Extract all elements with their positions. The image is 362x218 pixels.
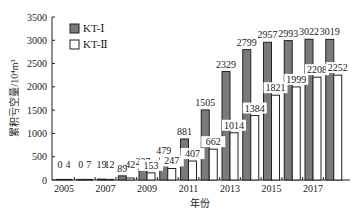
y-tick-label: 3500	[27, 12, 47, 23]
chart-canvas: 0500100015002000250030003500200520072009…	[0, 0, 362, 218]
y-tick-label: 500	[32, 151, 47, 162]
legend-swatch-kt2	[70, 40, 79, 49]
y-tick-label: 1000	[27, 128, 47, 139]
data-label: 0	[58, 159, 63, 170]
x-axis-title: 年份	[190, 197, 210, 209]
data-label: 479	[156, 145, 171, 156]
x-tick-label: 2011	[179, 183, 199, 194]
y-tick-label: 0	[42, 175, 47, 186]
data-label: 12	[105, 159, 115, 170]
data-label: 1384	[245, 103, 265, 114]
data-label: 42	[125, 159, 135, 170]
data-label: 2957	[258, 29, 278, 40]
bar-kt2-2005	[64, 179, 72, 180]
data-label: 662	[206, 136, 221, 147]
bar-kt2-2013	[230, 133, 238, 180]
bar-kt1-2016	[284, 41, 292, 180]
bar-kt2-2010	[168, 168, 176, 180]
data-label: 1999	[286, 74, 306, 85]
data-label: 881	[177, 126, 192, 137]
x-tick-label: 2007	[96, 183, 116, 194]
legend: KT-Ⅰ KT-Ⅱ	[70, 22, 108, 50]
bar-kt1-2008	[118, 176, 126, 180]
bar-kt2-2006	[85, 179, 93, 180]
data-label: 247	[164, 155, 179, 166]
legend-label-kt1: KT-Ⅰ	[83, 22, 105, 34]
data-label: 3022	[299, 26, 319, 37]
data-label: 2329	[216, 59, 236, 70]
data-label: 153	[144, 160, 159, 171]
data-label: 0	[78, 159, 83, 170]
data-label: 1014	[224, 120, 244, 131]
data-label: 7	[86, 159, 91, 170]
bar-kt2-2017	[313, 77, 321, 180]
data-label: 407	[185, 148, 200, 159]
bar-kt1-2006	[77, 179, 85, 180]
bar-kt1-2014	[243, 50, 251, 180]
bar-kt1-2007	[98, 179, 106, 180]
data-label: 1505	[195, 97, 215, 108]
data-label: 2799	[237, 37, 257, 48]
bar-kt2-2012	[209, 149, 217, 180]
x-tick-label: 2017	[303, 183, 323, 194]
y-tick-label: 2000	[27, 81, 47, 92]
bar-chart: 0500100015002000250030003500200520072009…	[0, 0, 362, 218]
x-tick-label: 2015	[262, 183, 282, 194]
bar-kt2-2018	[334, 75, 342, 180]
data-label: 1821	[266, 82, 286, 93]
bar-kt1-2005	[56, 179, 64, 180]
bar-kt1-2018	[326, 39, 334, 180]
y-tick-label: 1500	[27, 105, 47, 116]
y-tick-label: 2500	[27, 58, 47, 69]
bar-kt2-2008	[126, 178, 134, 180]
data-label: 2208	[307, 64, 327, 75]
bar-kt2-2014	[251, 116, 259, 180]
y-axis-title: 累积亏空量/10⁴m³	[8, 59, 20, 136]
data-label: 4	[66, 159, 71, 170]
x-tick-label: 2005	[54, 183, 74, 194]
y-tick-label: 3000	[27, 35, 47, 46]
data-label: 3019	[320, 26, 340, 37]
legend-label-kt2: KT-Ⅱ	[83, 38, 108, 50]
bar-kt1-2017	[305, 39, 313, 180]
x-tick-label: 2013	[220, 183, 240, 194]
bar-kt2-2016	[292, 87, 300, 180]
bar-kt2-2007	[106, 179, 114, 180]
bar-kt2-2015	[272, 95, 280, 180]
legend-swatch-kt1	[70, 24, 79, 33]
data-label: 2993	[278, 28, 298, 39]
bar-kt2-2011	[189, 161, 197, 180]
bar-kt2-2009	[147, 173, 155, 180]
data-label: 2252	[328, 62, 348, 73]
x-tick-label: 2009	[137, 183, 157, 194]
